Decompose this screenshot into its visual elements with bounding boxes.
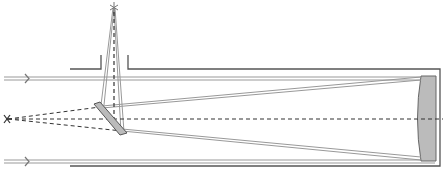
newtonian-telescope-diagram [0,0,443,176]
arrow-top-icon [25,74,29,83]
arrow-bottom-icon [25,157,29,166]
telescope-tube [70,55,440,166]
tube-inner-lines [4,77,435,163]
primary-mirror [418,76,437,161]
incoming-ray-arrows [25,74,29,166]
